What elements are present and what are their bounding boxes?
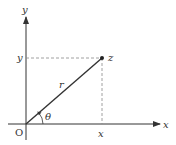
polar-coordinate-diagram: y x O y x z r θ bbox=[0, 0, 176, 145]
radius-label: r bbox=[59, 79, 65, 90]
y-axis-label: y bbox=[21, 4, 28, 15]
radius-line bbox=[26, 58, 102, 124]
point-z-label: z bbox=[107, 52, 114, 63]
origin-label: O bbox=[15, 127, 23, 138]
point-z bbox=[100, 56, 104, 60]
angle-label: θ bbox=[45, 111, 51, 122]
y-tick-label: y bbox=[16, 52, 23, 63]
x-tick-label: x bbox=[98, 128, 104, 139]
x-axis-label: x bbox=[163, 119, 169, 130]
